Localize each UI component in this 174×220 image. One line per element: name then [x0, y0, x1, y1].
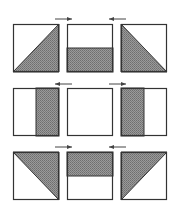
panel-r3c2 — [67, 152, 113, 200]
arrow-left-icon — [109, 145, 126, 149]
panel-r3c1 — [13, 152, 59, 200]
arrow-right-icon — [109, 82, 126, 86]
panel-r2c2 — [67, 88, 113, 136]
arrow-left-icon — [109, 17, 126, 21]
mirror-shading-diagram — [0, 0, 174, 220]
shaded-region — [67, 48, 113, 72]
panel-r1c1 — [13, 24, 59, 72]
arrow-right-icon — [55, 17, 72, 21]
panel-r3c3 — [121, 152, 167, 200]
arrow-left-icon — [55, 82, 72, 86]
panel-r1c3 — [121, 24, 167, 72]
panel-r2c3 — [121, 88, 167, 136]
panel-r2c1 — [13, 88, 59, 136]
panel-r1c2 — [67, 24, 113, 72]
shaded-region — [67, 152, 113, 176]
arrow-right-icon — [55, 145, 72, 149]
shaded-region — [121, 88, 144, 136]
shaded-region — [36, 88, 59, 136]
